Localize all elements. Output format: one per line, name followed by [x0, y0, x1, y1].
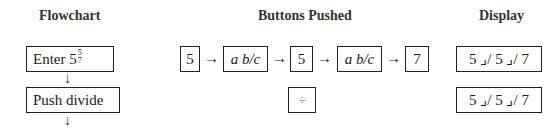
flowchart-header: Flowchart — [39, 8, 100, 24]
fraction: 57 — [78, 49, 82, 65]
button-divide: ÷ — [288, 87, 316, 113]
display-readout: 5 ⌟/ 5 ⌟/ 7 — [456, 87, 542, 113]
flowchart-step-enter: Enter 5 57 — [26, 46, 114, 72]
right-arrow-icon: → — [386, 50, 401, 67]
display-readout: 5 ⌟/ 5 ⌟/ 7 — [456, 46, 542, 72]
button-abc: a b/c — [223, 46, 268, 72]
step-label: Enter 5 — [33, 51, 77, 68]
right-arrow-icon: → — [204, 50, 219, 67]
button-5: 5 — [180, 46, 200, 72]
right-arrow-icon: → — [272, 50, 287, 67]
right-arrow-icon: → — [317, 50, 332, 67]
button-5: 5 — [290, 46, 313, 72]
down-arrow-icon: ↓ — [64, 72, 71, 86]
button-7: 7 — [405, 46, 429, 72]
down-arrow-icon: ↓ — [64, 114, 71, 128]
step-label: Push divide — [33, 92, 103, 109]
flowchart-step-divide: Push divide — [26, 87, 120, 113]
buttons-header: Buttons Pushed — [258, 8, 352, 24]
button-abc: a b/c — [337, 46, 382, 72]
display-header: Display — [479, 8, 524, 24]
